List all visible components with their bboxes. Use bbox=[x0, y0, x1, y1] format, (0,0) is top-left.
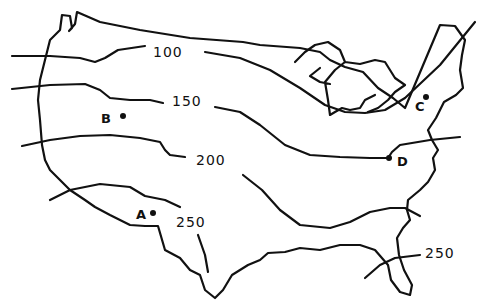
isoline-250-southwest bbox=[50, 184, 180, 207]
isoline-label-200: 200 bbox=[196, 153, 226, 167]
point-label-a: A bbox=[136, 208, 146, 221]
isoline-label-250-florida: 250 bbox=[425, 246, 455, 260]
point-label-b: B bbox=[101, 112, 111, 125]
isoline-150-east bbox=[215, 107, 460, 158]
isoline-label-100: 100 bbox=[153, 45, 183, 59]
isoline-250-southwest-south bbox=[198, 235, 208, 272]
point-marker-b bbox=[120, 113, 126, 119]
point-label-d: D bbox=[397, 155, 408, 168]
isoline-label-150: 150 bbox=[172, 94, 202, 108]
isoline-200-east bbox=[243, 175, 420, 228]
isoline-200 bbox=[22, 135, 185, 157]
point-label-c: C bbox=[415, 100, 425, 113]
isoline-250-florida bbox=[365, 255, 420, 278]
isoline-100 bbox=[12, 46, 145, 62]
us-isoline-map bbox=[0, 0, 486, 302]
point-marker-c bbox=[423, 94, 429, 100]
isoline-150 bbox=[12, 84, 163, 103]
great-lakes bbox=[295, 42, 405, 115]
point-marker-a bbox=[150, 210, 156, 216]
isoline-label-250-southwest: 250 bbox=[176, 215, 206, 229]
point-marker-d bbox=[386, 155, 392, 161]
